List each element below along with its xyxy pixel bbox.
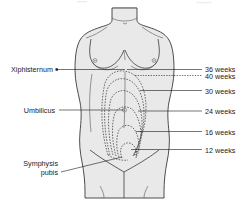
label-12-weeks: 12 weeks bbox=[205, 146, 236, 155]
label-40-weeks: 40 weeks bbox=[205, 72, 236, 81]
label-umbilicus: Umbilicus bbox=[24, 106, 56, 115]
leader-dot-xiphisternum bbox=[56, 68, 58, 70]
nipple-left-center bbox=[94, 60, 95, 61]
label-symphysis-pubis-line1: Symphysis bbox=[23, 159, 58, 168]
figure-canvas: Xiphisternum Umbilicus Symphysis pubis 3… bbox=[0, 0, 249, 208]
nipple-right-center bbox=[153, 60, 154, 61]
label-xiphisternum: Xiphisternum bbox=[11, 65, 53, 74]
label-symphysis-pubis-line2: pubis bbox=[41, 168, 59, 177]
label-16-weeks: 16 weeks bbox=[205, 128, 236, 137]
label-24-weeks: 24 weeks bbox=[205, 107, 236, 116]
scan-artifact-2 bbox=[77, 1, 87, 2]
label-30-weeks: 30 weeks bbox=[205, 87, 236, 96]
umbilicus-center bbox=[124, 109, 125, 110]
fundal-height-diagram: Xiphisternum Umbilicus Symphysis pubis 3… bbox=[0, 0, 249, 208]
torso-figure bbox=[75, 8, 174, 198]
scan-artifact-3 bbox=[196, 2, 212, 3]
